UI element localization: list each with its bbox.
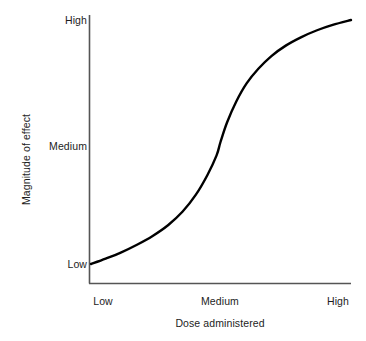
y-tick-label-high: High bbox=[65, 14, 87, 26]
x-tick-label-low: Low bbox=[93, 295, 113, 307]
dose-response-chart: High Medium Low Low Medium High Magnitud… bbox=[0, 0, 366, 341]
x-tick-label-medium: Medium bbox=[201, 295, 239, 307]
chart-plot-area bbox=[0, 0, 366, 341]
y-tick-label-medium: Medium bbox=[49, 140, 87, 152]
x-tick-label-high: High bbox=[327, 295, 349, 307]
y-axis-title: Magnitude of effect bbox=[20, 114, 32, 205]
dose-response-curve bbox=[91, 20, 351, 264]
x-axis-title: Dose administered bbox=[175, 317, 264, 329]
y-tick-label-low: Low bbox=[67, 258, 87, 270]
